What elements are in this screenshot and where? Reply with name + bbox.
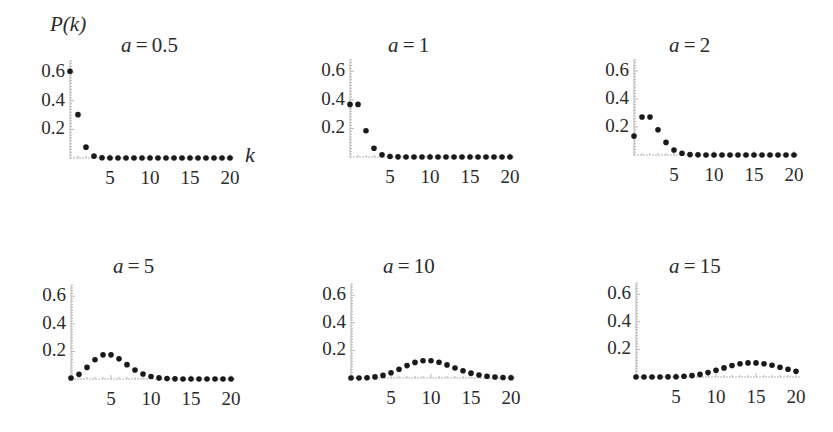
data-point bbox=[163, 155, 169, 161]
data-point bbox=[212, 376, 218, 382]
data-point bbox=[467, 154, 473, 160]
x-tick-label: 15 bbox=[462, 387, 481, 409]
data-point bbox=[737, 361, 743, 367]
data-point bbox=[436, 359, 442, 365]
data-point bbox=[735, 152, 741, 158]
data-point bbox=[639, 114, 645, 120]
data-point bbox=[721, 365, 727, 371]
data-point bbox=[444, 362, 450, 368]
data-point bbox=[203, 155, 209, 161]
panel-title: a = 0.5 bbox=[121, 33, 178, 58]
data-point bbox=[761, 361, 767, 367]
data-point bbox=[220, 376, 226, 382]
y-tick-label: 0.4 bbox=[26, 312, 66, 334]
data-point bbox=[75, 112, 81, 118]
y-tick-label: 0.2 bbox=[306, 338, 346, 360]
data-point bbox=[459, 154, 465, 160]
data-point bbox=[751, 152, 757, 158]
x-tick-label: 20 bbox=[501, 166, 520, 188]
data-point bbox=[412, 360, 418, 366]
data-point bbox=[403, 154, 409, 160]
data-point bbox=[631, 133, 637, 139]
y-tick-label: 0.4 bbox=[25, 89, 65, 111]
x-tick-label: 5 bbox=[669, 164, 679, 186]
data-point bbox=[156, 375, 162, 381]
data-point bbox=[204, 376, 210, 382]
panel-title: a = 2 bbox=[669, 33, 710, 58]
data-point bbox=[404, 363, 410, 369]
x-tick-label: 5 bbox=[106, 388, 116, 410]
data-point bbox=[155, 155, 161, 161]
data-point bbox=[460, 368, 466, 374]
data-point bbox=[107, 155, 113, 161]
data-point bbox=[671, 147, 677, 153]
data-point bbox=[633, 374, 639, 380]
data-point bbox=[695, 152, 701, 158]
data-point bbox=[123, 155, 129, 161]
x-tick-label: 10 bbox=[142, 388, 161, 410]
data-point bbox=[657, 374, 663, 380]
data-point bbox=[395, 154, 401, 160]
data-point bbox=[115, 155, 121, 161]
data-point bbox=[468, 370, 474, 376]
y-tick-label: 0.2 bbox=[25, 117, 65, 139]
data-point bbox=[428, 358, 434, 364]
data-point bbox=[371, 145, 377, 151]
y-tick-label: 0.4 bbox=[591, 310, 631, 332]
data-point bbox=[116, 356, 122, 362]
data-point bbox=[484, 373, 490, 379]
y-tick-label: 0.2 bbox=[591, 337, 631, 359]
data-point bbox=[396, 367, 402, 373]
panel-a-1 bbox=[347, 60, 514, 160]
data-point bbox=[492, 374, 498, 380]
data-point bbox=[665, 374, 671, 380]
data-point bbox=[76, 372, 82, 378]
panel-title: a = 10 bbox=[383, 254, 435, 279]
data-point bbox=[475, 154, 481, 160]
data-point bbox=[187, 155, 193, 161]
data-point bbox=[769, 362, 775, 368]
x-tick-label: 15 bbox=[181, 167, 200, 189]
data-point bbox=[435, 154, 441, 160]
data-point bbox=[687, 152, 693, 158]
data-point bbox=[743, 152, 749, 158]
data-point bbox=[729, 363, 735, 369]
x-tick-label: 5 bbox=[385, 166, 395, 188]
data-point bbox=[356, 375, 362, 381]
x-tick-label: 5 bbox=[671, 386, 681, 408]
data-point bbox=[348, 375, 354, 381]
data-point bbox=[697, 372, 703, 378]
data-point bbox=[131, 155, 137, 161]
data-point bbox=[379, 152, 385, 158]
data-point bbox=[164, 376, 170, 382]
data-point bbox=[364, 375, 370, 381]
y-axis-label: P(k) bbox=[50, 12, 86, 37]
data-point bbox=[777, 364, 783, 370]
data-point bbox=[419, 154, 425, 160]
x-axis-label: k bbox=[245, 142, 255, 168]
data-point bbox=[420, 358, 426, 364]
x-tick-label: 20 bbox=[221, 167, 240, 189]
x-tick-label: 10 bbox=[705, 164, 724, 186]
data-point bbox=[785, 366, 791, 372]
panel-title: a = 15 bbox=[669, 254, 721, 279]
data-point bbox=[68, 375, 74, 381]
data-point bbox=[147, 155, 153, 161]
data-point bbox=[767, 152, 773, 158]
data-point bbox=[500, 375, 506, 381]
x-tick-label: 10 bbox=[422, 387, 441, 409]
data-point bbox=[100, 352, 106, 358]
data-point bbox=[476, 372, 482, 378]
x-tick-label: 5 bbox=[386, 387, 396, 409]
data-point bbox=[649, 374, 655, 380]
data-point bbox=[139, 155, 145, 161]
data-point bbox=[689, 373, 695, 379]
data-point bbox=[171, 155, 177, 161]
poisson-panels-figure bbox=[0, 0, 833, 432]
x-tick-label: 10 bbox=[421, 166, 440, 188]
data-point bbox=[783, 152, 789, 158]
data-point bbox=[132, 367, 138, 373]
data-point bbox=[227, 155, 233, 161]
panel-a-2 bbox=[631, 60, 798, 158]
panel-a-15 bbox=[633, 283, 800, 380]
